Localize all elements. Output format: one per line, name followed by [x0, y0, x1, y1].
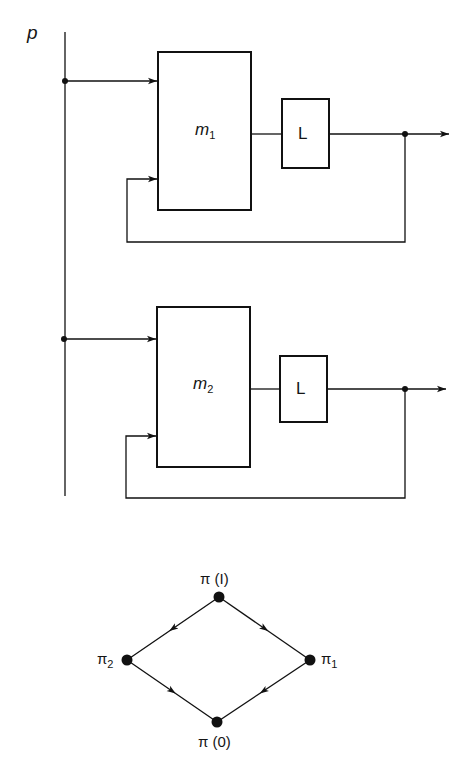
pi-symbol: π [321, 650, 331, 667]
edge-left-bottom [127, 660, 217, 722]
m-symbol: m [195, 120, 209, 139]
edge-right-bottom [217, 660, 310, 722]
node-right [305, 655, 316, 666]
feedback-line [127, 134, 405, 242]
block-m1 [62, 52, 449, 242]
delay-label-2: L [296, 379, 305, 399]
m1-label: m1 [195, 120, 215, 140]
node-left-label: π2 [97, 650, 113, 667]
node-top-label: π (I) [200, 570, 229, 587]
feedback-line [126, 389, 405, 498]
subscript: 2 [107, 658, 113, 670]
node-right-label: π1 [321, 650, 337, 667]
subscript: 1 [209, 129, 215, 141]
node-bottom-label: π (0) [198, 733, 231, 750]
lattice-diagram [122, 592, 316, 728]
input-label-p: p [27, 22, 38, 44]
m2-label: m2 [193, 374, 213, 394]
subscript: 2 [207, 383, 213, 395]
node-bottom [212, 717, 223, 728]
node-left [122, 655, 133, 666]
block-diagram [0, 0, 475, 773]
edge-top-right [219, 597, 310, 660]
edge-top-left [127, 597, 219, 660]
delay-label-1: L [298, 124, 307, 144]
pi-symbol: π [97, 650, 107, 667]
block-m2 [61, 307, 446, 498]
m-symbol: m [193, 374, 207, 393]
subscript: 1 [331, 658, 337, 670]
node-top [214, 592, 225, 603]
